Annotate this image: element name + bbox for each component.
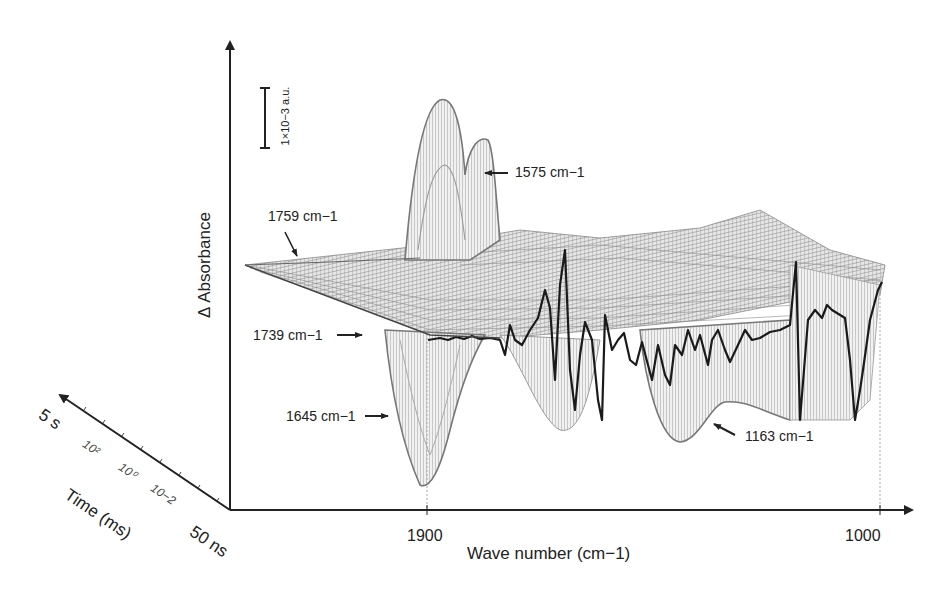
annotation-1645: 1645 cm−1 — [286, 408, 356, 424]
annotation-1575: 1575 cm−1 — [515, 164, 585, 180]
scale-bar — [260, 88, 270, 148]
annotation-1163: 1163 cm−1 — [745, 428, 814, 444]
x-tick-label-1000: 1000 — [845, 527, 881, 545]
negative-band-1645 — [385, 330, 485, 486]
arrow-1163 — [714, 424, 735, 435]
waterfall-chart: Δ Absorbance 1×10−3 a.u. 1900 1000 Wave … — [0, 0, 945, 594]
annotation-1759: 1759 cm−1 — [268, 208, 338, 224]
scale-bar-unit: a.u. — [279, 87, 291, 105]
x-axis-title: Wave number (cm−1) — [467, 544, 630, 564]
scale-bar-label: 1×10−3 a.u. — [279, 76, 291, 156]
x-tick-label-1900: 1900 — [407, 527, 443, 545]
positive-band-1575 — [405, 100, 500, 260]
scale-bar-value: 1×10−3 — [279, 108, 291, 145]
arrow-1759 — [285, 232, 297, 256]
annotation-1739: 1739 cm−1 — [253, 327, 323, 343]
y-axis-title: Δ Absorbance — [195, 200, 215, 330]
chart-canvas — [0, 0, 945, 594]
